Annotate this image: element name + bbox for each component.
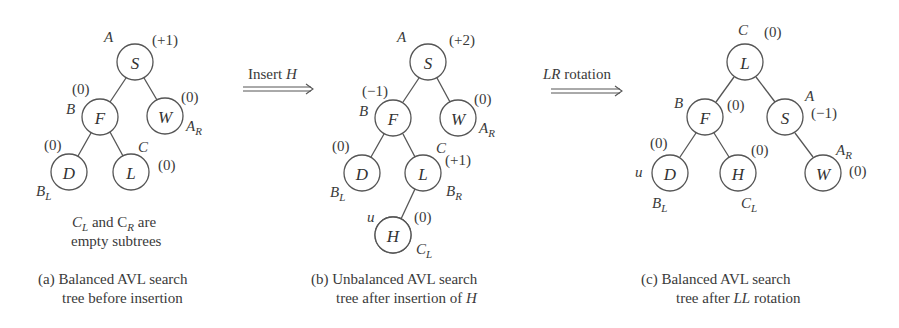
node-w: W: [805, 155, 841, 191]
svg-text:W: W: [816, 165, 832, 184]
tag-c: C: [738, 22, 749, 38]
node-f: F: [375, 100, 411, 136]
panel-c: L F S D H W C (0) B (0) A (−1) (0) u BL: [635, 22, 867, 306]
panel-a: S F W D L A (+1) (0) B (0) AR (0) C (0) …: [36, 29, 202, 306]
balance-factor-w: (0): [474, 91, 492, 108]
node-l: L: [113, 154, 149, 190]
tag-c: C: [138, 139, 149, 155]
node-w: W: [440, 100, 476, 136]
tag-a: A: [396, 29, 407, 45]
balance-factor-f: (0): [72, 81, 90, 98]
edge-l-h: [401, 189, 415, 219]
node-h: H: [720, 155, 756, 191]
tag-b: B: [674, 95, 683, 111]
tag-ar: AR: [478, 120, 495, 139]
svg-text:F: F: [94, 109, 106, 128]
edge-f-d: [78, 133, 91, 156]
svg-text:S: S: [131, 54, 140, 73]
svg-text:F: F: [387, 110, 399, 129]
svg-text:H: H: [386, 227, 401, 246]
svg-text:D: D: [62, 164, 76, 183]
tag-a: A: [103, 29, 114, 45]
svg-text:W: W: [158, 108, 174, 127]
balance-factor-s: (−1): [811, 105, 837, 122]
balance-factor-f: (−1): [362, 83, 388, 100]
node-d: D: [652, 155, 688, 191]
caption-c-line2: tree after LL rotation: [676, 290, 801, 306]
edge-s-w: [144, 78, 157, 100]
avl-rotation-diagram: S F W D L A (+1) (0) B (0) AR (0) C (0) …: [0, 0, 899, 328]
caption-c-line1: (c) Balanced AVL search: [641, 271, 791, 288]
arrow-lr-rotation: LR rotation: [542, 66, 622, 96]
arrow-insert-h: Insert H: [243, 66, 313, 94]
node-d: D: [51, 154, 87, 190]
edge-s-w: [795, 133, 813, 157]
node-s: S: [767, 99, 803, 135]
edge-s-w: [437, 78, 450, 102]
node-s: S: [117, 44, 153, 80]
svg-text:L: L: [125, 164, 135, 183]
edge-f-l: [110, 132, 123, 156]
svg-text:D: D: [663, 165, 677, 184]
edge-s-f: [403, 78, 419, 102]
tag-ar: AR: [835, 142, 852, 161]
tag-cl: CL: [416, 241, 432, 260]
tag-br: BR: [446, 183, 462, 202]
node-h-inserted: H: [375, 217, 411, 253]
node-l: L: [405, 155, 441, 191]
note-empty-subtrees-1: CL and CR are: [72, 214, 156, 233]
balance-factor-h: (0): [414, 209, 432, 226]
svg-text:W: W: [451, 110, 467, 129]
edge-f-l: [403, 134, 415, 157]
balance-factor-l: (0): [764, 24, 782, 41]
tag-u: u: [635, 164, 643, 180]
arrow-head-icon: [306, 84, 313, 94]
tag-b: B: [66, 101, 75, 117]
caption-b-line2: tree after insertion of H: [336, 290, 478, 306]
tag-b: B: [359, 103, 368, 119]
tag-ar: AR: [185, 118, 202, 137]
node-s: S: [410, 44, 446, 80]
node-w: W: [147, 98, 183, 134]
panel-b: S F W D L H A (+2) (−1) B (0) AR: [311, 29, 495, 306]
edge-f-d: [680, 133, 696, 157]
edge-f-h: [714, 133, 729, 157]
balance-factor-s: (+1): [152, 32, 178, 49]
balance-factor-h: (0): [751, 142, 769, 159]
arrow-insert-h-label: Insert H: [248, 66, 298, 82]
svg-text:S: S: [781, 109, 790, 128]
svg-text:L: L: [739, 54, 749, 73]
caption-b-line1: (b) Unbalanced AVL search: [311, 271, 478, 288]
edge-s-f: [110, 78, 126, 102]
balance-factor-f: (0): [727, 97, 745, 114]
caption-a-line1: (a) Balanced AVL search: [38, 271, 188, 288]
balance-factor-d: (0): [650, 135, 668, 152]
balance-factor-l: (0): [158, 157, 176, 174]
arrow-lr-rotation-label: LR rotation: [542, 66, 611, 82]
tag-bl: BL: [36, 183, 51, 202]
tag-bl: BL: [330, 184, 345, 203]
tag-u: u: [367, 209, 375, 225]
balance-factor-s: (+2): [449, 32, 475, 49]
balance-factor-w: (0): [849, 163, 867, 180]
node-d: D: [344, 155, 380, 191]
tag-a: A: [804, 88, 815, 104]
balance-factor-w: (0): [181, 89, 199, 106]
arrow-head-icon: [615, 86, 622, 96]
svg-text:D: D: [355, 165, 369, 184]
balance-factor-l: (+1): [445, 152, 471, 169]
node-l: L: [727, 44, 763, 80]
edge-f-d: [371, 134, 384, 157]
svg-text:F: F: [699, 109, 711, 128]
edge-l-s: [756, 77, 775, 102]
svg-text:L: L: [417, 165, 427, 184]
balance-factor-d: (0): [332, 138, 350, 155]
balance-factor-d: (0): [44, 137, 62, 154]
note-empty-subtrees-2: empty subtrees: [71, 233, 162, 249]
caption-a-line2: tree before insertion: [62, 290, 183, 306]
tag-cl: CL: [741, 195, 757, 214]
svg-text:S: S: [424, 54, 433, 73]
node-f: F: [687, 99, 723, 135]
tag-bl: BL: [652, 195, 667, 214]
svg-text:H: H: [731, 165, 746, 184]
